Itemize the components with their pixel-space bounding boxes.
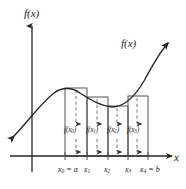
curve-label: f(x)	[121, 38, 136, 49]
figure-canvas	[0, 0, 186, 189]
function-curve	[14, 43, 168, 136]
x-tick-label-1: x1	[84, 166, 90, 175]
bar-height-label-sub: 3	[134, 128, 136, 134]
x-tick-sub: 3	[129, 168, 132, 174]
riemann-rectangles	[65, 88, 148, 156]
x-tick-label-3: x3	[125, 166, 131, 175]
bar-height-label-sub: 0	[71, 128, 73, 134]
bar-height-label-0: f(x0)	[64, 126, 76, 134]
bar-height-label-sub: 2	[114, 128, 116, 134]
x-axis-label: x	[174, 152, 179, 163]
x-tick-suffix: = b	[146, 165, 159, 174]
x-tick-label-2: x2	[104, 166, 110, 175]
bar-height-label-2: f(x2)	[107, 126, 119, 134]
x-tick-label-0: x0 = a	[58, 166, 78, 175]
bar-height-label-3: f(x3)	[127, 126, 139, 134]
bar-height-label-1: f(x1)	[86, 126, 98, 134]
x-tick-label-4: x4 = b	[140, 166, 160, 175]
y-axis-label: f(x)	[24, 8, 39, 19]
x-tick-sub: 2	[108, 168, 111, 174]
bar-height-label-sub: 1	[93, 128, 95, 134]
riemann-sum-figure: f(x) x f(x) f(x0) f(x1) f(x2) f(x3) x0 =…	[0, 0, 186, 189]
x-tick-suffix: = a	[64, 165, 77, 174]
x-tick-sub: 1	[88, 168, 91, 174]
